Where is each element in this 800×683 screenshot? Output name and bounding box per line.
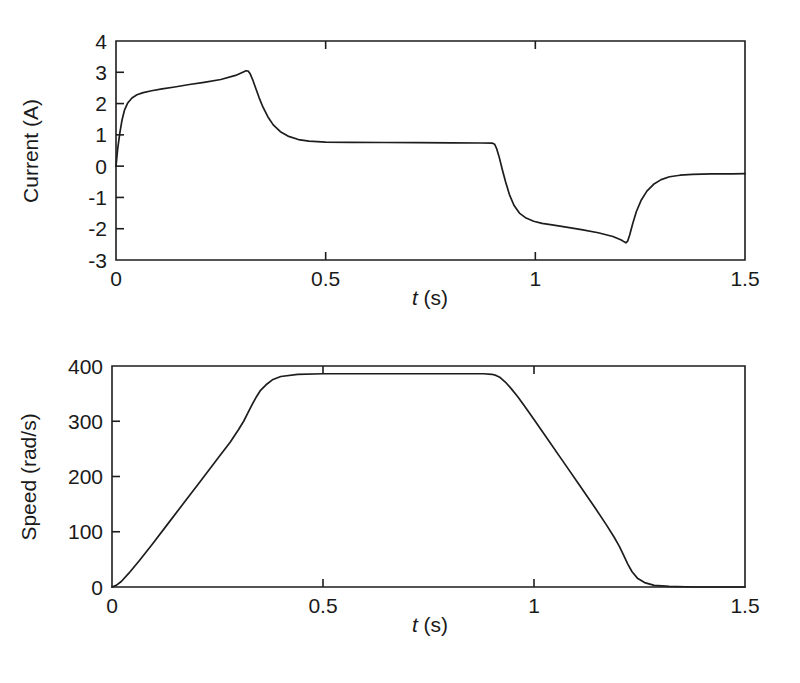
speed-x-axis-title: t (s) — [412, 613, 448, 636]
chart-panel-speed: 0100200300400 00.511.5 Speed (rad/s) t (… — [0, 341, 800, 683]
current-chart-svg: -3-2-101234 00.511.5 Current (A) t (s) — [0, 0, 800, 341]
speed-x-tick-marks — [323, 366, 534, 587]
x-tick-label: 0.5 — [308, 594, 337, 617]
y-tick-label: -1 — [88, 186, 107, 209]
chart-panel-current: -3-2-101234 00.511.5 Current (A) t (s) — [0, 0, 800, 341]
x-tick-label: 0.5 — [311, 267, 340, 290]
y-tick-label: 100 — [68, 520, 103, 543]
x-tick-label: 1 — [528, 594, 540, 617]
current-y-axis-title: Current (A) — [19, 99, 42, 203]
speed-y-axis-title: Speed (rad/s) — [17, 413, 40, 540]
y-tick-label: 3 — [95, 61, 107, 84]
x-tick-label: 0 — [106, 594, 118, 617]
current-axis-frame — [116, 41, 745, 260]
current-x-axis-title: t (s) — [412, 286, 448, 309]
speed-axes — [112, 366, 745, 587]
speed-axis-frame — [112, 366, 745, 587]
y-tick-label: 0 — [91, 576, 103, 599]
speed-y-tick-labels: 0100200300400 — [68, 355, 103, 599]
y-tick-label: 1 — [95, 123, 107, 146]
x-tick-label: 1.5 — [730, 594, 759, 617]
x-tick-label: 1.5 — [730, 267, 759, 290]
speed-y-tick-marks — [112, 421, 120, 532]
current-data-curve — [116, 71, 745, 243]
y-tick-label: 2 — [95, 92, 107, 115]
current-x-tick-marks — [326, 41, 536, 260]
y-tick-label: 4 — [95, 30, 107, 53]
y-tick-label: 300 — [68, 410, 103, 433]
y-tick-label: 400 — [68, 355, 103, 378]
y-tick-label: 0 — [95, 155, 107, 178]
current-axes — [116, 41, 745, 260]
y-tick-label: 200 — [68, 465, 103, 488]
speed-data-curve — [112, 374, 745, 587]
speed-chart-svg: 0100200300400 00.511.5 Speed (rad/s) t (… — [0, 341, 800, 683]
current-y-tick-labels: -3-2-101234 — [88, 30, 107, 272]
speed-x-axis-unit: (s) — [418, 613, 448, 636]
x-tick-label: 0 — [110, 267, 122, 290]
current-x-axis-unit: (s) — [418, 286, 448, 309]
figure-container: -3-2-101234 00.511.5 Current (A) t (s) 0… — [0, 0, 800, 683]
y-tick-label: -2 — [88, 217, 107, 240]
x-tick-label: 1 — [529, 267, 541, 290]
y-tick-label: -3 — [88, 249, 107, 272]
